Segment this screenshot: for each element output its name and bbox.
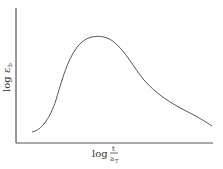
x-label-denominator: a [110, 155, 114, 163]
y-label-log: log [1, 76, 12, 92]
x-axis-label: log t a T [92, 145, 119, 164]
chart: log ε b log t a T [0, 0, 223, 169]
y-label-subscript: b [6, 63, 13, 67]
y-label-symbol: ε [1, 68, 12, 73]
x-label-numerator: t [112, 145, 115, 153]
x-label-subscript: T [115, 158, 119, 164]
data-curve [32, 36, 212, 132]
y-axis-label: log ε b [1, 63, 13, 92]
x-label-log: log [92, 148, 108, 159]
